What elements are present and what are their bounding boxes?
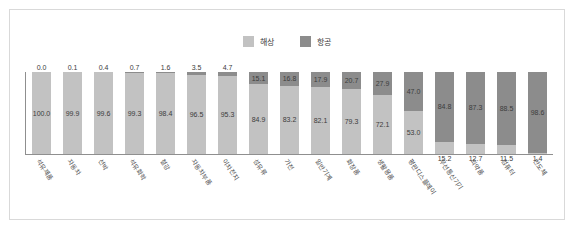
stacked-bar[interactable]: 16.883.2 xyxy=(280,72,299,154)
x-axis-label: 일반기계 xyxy=(314,158,333,181)
bar-slot: 0.799.3 xyxy=(119,72,150,154)
stacked-bar[interactable]: 87.312.7 xyxy=(466,72,485,154)
bar-value-sea: 79.3 xyxy=(345,118,359,125)
bar-segment-sea[interactable]: 95.3 xyxy=(218,76,237,154)
x-axis-label: 반도체 xyxy=(531,158,547,176)
x-axis-label-slot: 선박 xyxy=(88,156,119,226)
bar-value-sea: 72.1 xyxy=(376,121,390,128)
stacked-bar[interactable]: 27.972.1 xyxy=(373,72,392,154)
legend-entry-air: 항공 xyxy=(300,36,331,47)
x-axis-label-slot: 반도체 xyxy=(523,156,554,226)
bar-value-air: 20.7 xyxy=(345,77,359,84)
bar-slot: 15.184.9 xyxy=(243,72,274,154)
bar-segment-sea[interactable]: 84.9 xyxy=(249,84,268,154)
x-axis-label: 섬유류 xyxy=(252,158,268,176)
bar-segment-sea[interactable]: 100.0 xyxy=(32,72,51,154)
bar-value-air: 0.7 xyxy=(130,64,140,71)
x-axis-label-slot: 평판디스플레이 xyxy=(399,156,430,226)
bar-segment-sea[interactable]: 79.3 xyxy=(342,89,361,154)
x-axis-label: 생활용품 xyxy=(376,158,395,181)
bar-slot: 3.596.5 xyxy=(181,72,212,154)
x-axis-label: 화장품 xyxy=(345,158,361,176)
bar-segment-sea[interactable]: 99.9 xyxy=(63,72,82,154)
bar-segment-air[interactable]: 17.9 xyxy=(311,72,330,87)
bar-value-air: 3.5 xyxy=(192,64,202,71)
bar-segment-air[interactable]: 84.8 xyxy=(435,72,454,142)
bar-segment-air[interactable]: 47.0 xyxy=(404,72,423,111)
x-axis-label-slot: 석유화학 xyxy=(119,156,150,226)
legend-swatch-sea xyxy=(243,36,254,47)
stacked-bar[interactable]: 98.61.4 xyxy=(528,72,547,154)
bar-segment-sea[interactable]: 15.2 xyxy=(435,142,454,154)
x-axis-label: 석유화학 xyxy=(127,158,146,181)
x-axis-label-slot: 석유제품 xyxy=(26,156,57,226)
stacked-bar[interactable]: 0.199.9 xyxy=(63,72,82,154)
stacked-bar[interactable]: 3.596.5 xyxy=(187,72,206,154)
x-axis-category-labels: 석유제품자동차선박석유화학철강자동차부품이차전지섬유류가전일반기계화장품생활용품… xyxy=(26,156,554,226)
bar-value-sea: 96.5 xyxy=(190,111,204,118)
bar-segment-sea[interactable]: 99.3 xyxy=(125,73,144,154)
bar-value-air: 88.5 xyxy=(500,105,514,112)
bar-value-sea: 95.3 xyxy=(221,111,235,118)
plot-area: 0.0100.00.199.90.499.60.799.31.698.43.59… xyxy=(25,72,553,154)
bar-value-air: 0.1 xyxy=(68,64,78,71)
bar-segment-sea[interactable]: 11.5 xyxy=(497,145,516,154)
x-axis-label: 철강 xyxy=(158,158,170,172)
bar-segment-sea[interactable]: 1.4 xyxy=(528,153,547,154)
x-axis-label: 컴퓨터 xyxy=(500,158,516,176)
stacked-bar[interactable]: 84.815.2 xyxy=(435,72,454,154)
bar-value-air: 87.3 xyxy=(469,104,483,111)
stacked-bar[interactable]: 0.499.6 xyxy=(94,72,113,154)
bar-value-sea: 99.6 xyxy=(97,110,111,117)
bar-segment-air[interactable]: 15.1 xyxy=(249,72,268,84)
bar-slot: 0.499.6 xyxy=(88,72,119,154)
bar-segment-sea[interactable]: 96.5 xyxy=(187,75,206,154)
x-axis-label: 자동차부품 xyxy=(190,158,213,186)
bar-value-air: 0.4 xyxy=(99,64,109,71)
x-axis-label: 석유제품 xyxy=(34,158,53,181)
bar-value-sea: 84.9 xyxy=(252,116,266,123)
bar-segment-sea[interactable]: 99.6 xyxy=(94,72,113,154)
chart-legend: 해상 항공 xyxy=(10,36,564,47)
bar-segment-air[interactable]: 87.3 xyxy=(466,72,485,144)
x-axis-label-slot: 철강 xyxy=(150,156,181,226)
stacked-bar[interactable]: 20.779.3 xyxy=(342,72,361,154)
bar-value-sea: 100.0 xyxy=(33,110,51,117)
x-axis-label: 선박 xyxy=(96,158,108,172)
stacked-bar[interactable]: 0.799.3 xyxy=(125,72,144,154)
bar-slot: 17.982.1 xyxy=(305,72,336,154)
x-axis-label: 가전 xyxy=(283,158,295,172)
bar-value-sea: 99.3 xyxy=(128,110,142,117)
stacked-bar[interactable]: 17.982.1 xyxy=(311,72,330,154)
legend-label-sea: 해상 xyxy=(260,36,274,47)
bar-segment-sea[interactable]: 53.0 xyxy=(404,111,423,154)
bar-segment-sea[interactable]: 12.7 xyxy=(466,144,485,154)
bar-value-sea: 83.2 xyxy=(283,116,297,123)
bar-segment-air[interactable]: 16.8 xyxy=(280,72,299,86)
stacked-bar[interactable]: 47.053.0 xyxy=(404,72,423,154)
x-axis-label: 의약품 xyxy=(469,158,485,176)
legend-swatch-air xyxy=(300,36,311,47)
bar-segment-air[interactable]: 88.5 xyxy=(497,72,516,145)
bar-segment-sea[interactable]: 83.2 xyxy=(280,86,299,154)
legend-label-air: 항공 xyxy=(317,36,331,47)
bar-value-air: 27.9 xyxy=(376,80,390,87)
bar-slot: 16.883.2 xyxy=(274,72,305,154)
bar-segment-sea[interactable]: 82.1 xyxy=(311,87,330,154)
bar-segment-sea[interactable]: 98.4 xyxy=(156,73,175,154)
bar-value-air: 15.1 xyxy=(252,75,266,82)
x-axis-label-slot: 화장품 xyxy=(337,156,368,226)
stacked-bar[interactable]: 15.184.9 xyxy=(249,72,268,154)
stacked-bar[interactable]: 4.795.3 xyxy=(218,72,237,154)
bar-segment-air[interactable]: 27.9 xyxy=(373,72,392,95)
bar-slot: 0.199.9 xyxy=(57,72,88,154)
bar-segment-sea[interactable]: 72.1 xyxy=(373,95,392,154)
stacked-bar[interactable]: 88.511.5 xyxy=(497,72,516,154)
bar-slot: 0.0100.0 xyxy=(26,72,57,154)
stacked-bar[interactable]: 1.698.4 xyxy=(156,72,175,154)
x-axis-label: 이차전지 xyxy=(221,158,240,181)
stacked-bar[interactable]: 0.0100.0 xyxy=(32,72,51,154)
bar-segment-air[interactable]: 20.7 xyxy=(342,72,361,89)
bar-segment-air[interactable]: 98.6 xyxy=(528,72,547,153)
bar-value-sea: 53.0 xyxy=(407,129,421,136)
